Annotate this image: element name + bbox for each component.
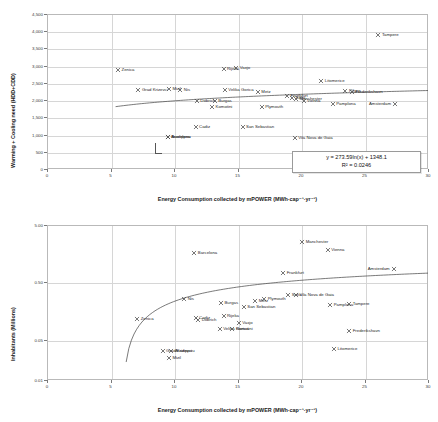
data-point-label: Rijeka <box>227 314 239 319</box>
data-point-marker <box>392 101 397 106</box>
data-point-marker <box>166 86 171 91</box>
data-point-label: Nis <box>184 87 190 92</box>
data-point-label: Burgas <box>224 301 238 306</box>
data-point-marker <box>241 305 246 310</box>
y-tick-mark <box>44 340 47 341</box>
data-point-marker <box>391 266 396 271</box>
data-point-marker <box>218 300 223 305</box>
data-point-marker <box>300 239 305 244</box>
data-point-label: Aradippou <box>171 135 191 140</box>
x-tick-mark <box>47 169 48 172</box>
y-tick-label: 0.05 <box>17 337 43 342</box>
y-tick-mark <box>44 380 47 381</box>
y-tick-label: 1,000 <box>17 132 43 137</box>
x-tick-label: 10 <box>172 173 177 178</box>
data-point-label: Grad Krizevci <box>142 87 168 92</box>
data-point-label: Manchester <box>306 239 328 244</box>
data-point-marker <box>347 302 352 307</box>
x-tick-label: 25 <box>362 173 367 178</box>
data-point-marker <box>286 293 291 298</box>
data-point-marker <box>259 105 264 110</box>
y-tick-mark <box>44 135 47 136</box>
data-point-marker <box>281 271 286 276</box>
gridline-horizontal <box>48 118 427 119</box>
x-tick-mark <box>238 380 239 383</box>
gridline-vertical <box>175 15 176 168</box>
data-point-marker <box>196 318 201 323</box>
x-tick-label: 10 <box>172 384 177 389</box>
data-point-marker <box>194 99 199 104</box>
data-point-marker <box>217 326 222 331</box>
data-point-marker <box>343 89 348 94</box>
data-point-label: Metz <box>261 90 270 95</box>
y-tick-label: 1,500 <box>17 115 43 120</box>
data-point-label: Amsterdam <box>368 267 390 272</box>
x-tick-label: 20 <box>299 173 304 178</box>
y-tick-mark <box>44 66 47 67</box>
data-point-marker <box>221 67 226 72</box>
x-tick-mark <box>111 380 112 383</box>
data-point-label: Frederikshavn <box>353 328 380 333</box>
x-tick-label: 5 <box>109 384 111 389</box>
data-point-marker <box>193 124 198 129</box>
data-point-marker <box>319 78 324 83</box>
gridline-horizontal <box>48 49 427 50</box>
y-tick-mark <box>44 152 47 153</box>
data-point-label: Komotini <box>216 105 233 110</box>
x-tick-label: 25 <box>362 384 367 389</box>
y-tick-label: 3,500 <box>17 46 43 51</box>
y-tick-mark <box>44 100 47 101</box>
x-tick-label: 30 <box>426 173 431 178</box>
panel-a-x-axis-title: Energy Consumption collected by mPOWER (… <box>47 196 428 202</box>
data-point-marker <box>255 89 260 94</box>
data-point-label: Litomerice <box>325 79 345 84</box>
gridline-horizontal <box>48 136 427 137</box>
y-tick-mark <box>44 83 47 84</box>
data-point-label: Tampere <box>353 302 370 307</box>
data-point-marker <box>253 298 258 303</box>
data-point-label: Vienna <box>331 248 344 253</box>
y-tick-label: 0.50 <box>17 280 43 285</box>
data-point-label: Vila Nova de Gaia <box>299 293 334 298</box>
gridline-vertical <box>302 226 303 379</box>
data-point-label: Vila Nova de Gaia <box>298 136 333 141</box>
data-point-marker <box>160 348 165 353</box>
data-point-label: Frederikshavn <box>355 90 382 95</box>
gridline-vertical <box>302 15 303 168</box>
y-tick-mark <box>44 169 47 170</box>
x-tick-mark <box>174 169 175 172</box>
data-point-label: Komotini <box>236 327 253 332</box>
gridline-horizontal <box>48 341 427 342</box>
data-point-label: Cadiz <box>199 125 210 130</box>
data-point-marker <box>376 33 381 38</box>
panel-a-r-squared: R² = 0.0246 <box>297 162 416 170</box>
data-point-marker <box>166 356 171 361</box>
data-point-marker <box>293 293 298 298</box>
gridline-vertical <box>239 226 240 379</box>
panel-a: a) Warming + Cooling need (HDD+CDD) 0510… <box>0 0 438 211</box>
data-point-marker <box>222 87 227 92</box>
data-point-label: Velika Gorica <box>228 87 253 92</box>
figure-two-panel-scatter: a) Warming + Cooling need (HDD+CDD) 0510… <box>0 0 438 422</box>
data-point-marker <box>116 67 121 72</box>
y-tick-mark <box>44 48 47 49</box>
data-point-marker <box>293 97 298 102</box>
x-tick-mark <box>174 380 175 383</box>
x-tick-mark <box>47 380 48 383</box>
gridline-horizontal <box>48 283 427 284</box>
data-point-label: Aradippou <box>175 349 195 354</box>
data-point-label: Zenica <box>122 68 135 73</box>
data-point-label: Plymouth <box>268 296 286 301</box>
x-tick-mark <box>428 380 429 383</box>
y-tick-mark <box>44 14 47 15</box>
y-tick-mark <box>44 31 47 32</box>
data-point-label: Mizil <box>172 356 181 361</box>
data-point-label: Pamplona <box>336 102 355 107</box>
data-point-marker <box>347 328 352 333</box>
data-point-marker <box>165 134 170 139</box>
data-point-marker <box>349 89 354 94</box>
y-tick-mark <box>44 225 47 226</box>
data-point-marker <box>292 136 297 141</box>
data-point-label: Plymouth <box>265 105 283 110</box>
data-point-marker <box>182 296 187 301</box>
